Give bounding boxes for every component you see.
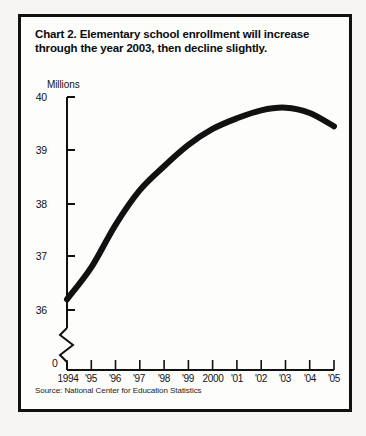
x-tick-label-2003: '03: [271, 373, 299, 384]
x-tick-label-1997: '97: [125, 373, 153, 384]
enrollment-trend-line: [67, 108, 334, 300]
chart-svg: [21, 17, 349, 409]
x-tick-label-2005: '05: [320, 373, 348, 384]
source-note: Source: National Center for Education St…: [35, 386, 202, 395]
figure-frame: Chart 2. Elementary school enrollment wi…: [18, 14, 352, 412]
chart-plot-area: Millions 40 39 38 37 36 0: [21, 17, 349, 409]
y-axis-break-icon: [60, 328, 73, 362]
x-axis-ticks: [67, 360, 334, 370]
page-background: Chart 2. Elementary school enrollment wi…: [0, 0, 366, 436]
